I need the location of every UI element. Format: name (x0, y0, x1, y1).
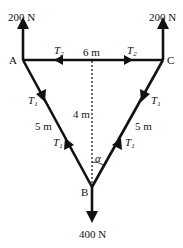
member-ab (23, 60, 92, 187)
force-label-a: 200 N (8, 11, 35, 23)
arrow-down-icon (86, 211, 98, 223)
tension-label-t1-lower-left: T1 (53, 136, 63, 150)
truss-diagram: 200 N 200 N 400 N A C B 6 m 4 m 5 m 5 m … (0, 0, 183, 248)
right-side-label: 5 m (135, 120, 152, 132)
tension-label-t2-right: T2 (127, 44, 137, 58)
point-label-a: A (9, 54, 17, 66)
height-label: 4 m (73, 108, 90, 120)
arrow-along-ab-up-icon (64, 138, 74, 150)
left-side-label: 5 m (35, 120, 52, 132)
force-label-b: 400 N (79, 228, 106, 240)
member-cb (92, 60, 163, 187)
point-label-b: B (81, 186, 88, 198)
force-label-c: 200 N (149, 11, 176, 23)
width-label: 6 m (83, 46, 100, 58)
point-label-c: C (167, 54, 174, 66)
diagram-canvas: 200 N 200 N 400 N A C B 6 m 4 m 5 m 5 m … (0, 0, 183, 248)
angle-label: α (95, 152, 101, 164)
tension-label-t2-left: T2 (54, 44, 64, 58)
tension-label-t1-upper-right: T1 (151, 94, 161, 108)
tension-label-t1-upper-left: T1 (28, 94, 38, 108)
arrow-right-icon (124, 55, 133, 65)
tension-label-t1-lower-right: T1 (125, 136, 135, 150)
